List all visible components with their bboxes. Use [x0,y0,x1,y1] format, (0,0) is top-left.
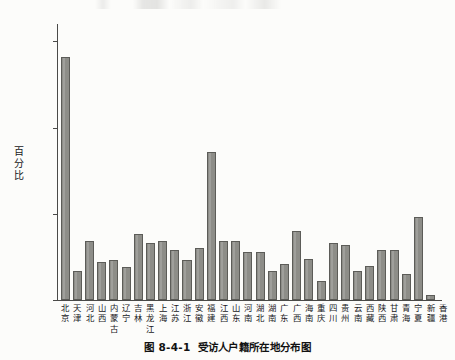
x-tick-label-char: 新 [426,303,436,313]
x-tick-label-char: 福 [206,303,216,313]
x-tick-label-char: 天 [72,303,82,313]
caption-number: 图 8-4-1 [144,341,190,353]
x-tick-label: 甘肃 [389,303,399,324]
y-axis-title-char-2: 分 [12,158,25,170]
x-tick-label-char: 湖 [267,303,277,313]
x-tick-label-char: 山 [231,303,241,313]
x-tick-label: 吉林 [133,303,143,324]
plot-area: 051015 [57,24,442,300]
x-tick-label: 香港 [438,303,448,324]
x-tick-label-char: 北 [60,303,70,313]
bar [170,250,179,300]
x-tick-label-char: 海 [304,303,314,313]
x-tick-label-char: 四 [328,303,338,313]
x-tick-label-char: 广 [279,303,289,313]
x-tick-label: 安徽 [194,303,204,324]
x-tick-label: 宁夏 [413,303,423,324]
bar [219,241,228,300]
x-tick-label-char: 贵 [340,303,350,313]
y-tick-mark [53,214,58,215]
x-tick-label-char: 重 [316,303,326,313]
x-tick-label-char: 香 [438,303,448,313]
figure-caption: 图 8-4-1受访人户籍所在地分布图 [0,339,455,354]
x-tick-label-char: 川 [328,313,338,323]
bar [85,241,94,300]
x-tick-label-char: 藏 [365,313,375,323]
x-tick-label: 辽宁 [121,303,131,324]
x-tick-label-char: 江 [145,324,155,334]
y-tick-mark [53,300,58,301]
x-tick-label-char: 海 [158,313,168,323]
x-tick-label-char: 西 [97,313,107,323]
x-tick-label: 新疆 [426,303,436,324]
bar [134,234,143,300]
bar [243,252,252,300]
x-tick-label-char: 江 [219,303,229,313]
figure-container: 百 分 比 051015 北京天津河北山西内蒙古辽宁吉林黑龙江上海江苏浙江安徽福… [0,0,455,360]
y-axis-title-char-1: 百 [12,146,25,158]
x-tick-label-char: 西 [365,303,375,313]
x-tick-label-char: 建 [206,313,216,323]
bar [426,295,435,300]
bar [61,57,70,300]
x-tick-label-char: 辽 [121,303,131,313]
x-axis-line [57,300,442,301]
x-tick-label: 天津 [72,303,82,324]
x-axis-labels: 北京天津河北山西内蒙古辽宁吉林黑龙江上海江苏浙江安徽福建江西山东河南湖北湖南广东… [57,303,442,337]
x-tick-label-char: 内 [109,303,119,313]
y-axis-title: 百 分 比 [12,146,25,182]
bar [158,241,167,300]
bar [377,250,386,300]
x-tick-label-char: 龙 [145,313,155,323]
x-tick-label: 江苏 [170,303,180,324]
x-tick-label: 湖南 [267,303,277,324]
bar [97,262,106,300]
x-tick-label-char: 苏 [170,313,180,323]
x-tick-label-char: 西 [377,313,387,323]
x-tick-label-char: 江 [182,313,192,323]
bar [109,260,118,300]
bar [317,281,326,300]
x-tick-label-char: 河 [243,303,253,313]
x-tick-label-char: 肃 [389,313,399,323]
x-tick-label: 广西 [292,303,302,324]
x-tick-label-char: 西 [219,313,229,323]
x-tick-label-char: 海 [401,313,411,323]
bar [365,266,374,301]
x-tick-label-char: 上 [158,303,168,313]
x-tick-label: 青海 [401,303,411,324]
x-tick-label: 江西 [219,303,229,324]
x-tick-label-char: 青 [401,303,411,313]
x-tick-label-char: 西 [292,313,302,323]
x-tick-label: 上海 [158,303,168,324]
bar [292,231,301,300]
x-tick-label-char: 云 [353,303,363,313]
x-tick-label-char: 蒙 [109,313,119,323]
x-tick-label: 北京 [60,303,70,324]
x-tick-label-char: 徽 [194,313,204,323]
x-tick-label-char: 黑 [145,303,155,313]
y-axis-line [57,24,58,300]
x-tick-label-char: 江 [170,303,180,313]
bar [207,152,216,300]
x-tick-label-char: 浙 [182,303,192,313]
bar [280,264,289,300]
x-tick-label: 山西 [97,303,107,324]
x-tick-label: 福建 [206,303,216,324]
x-tick-label: 浙江 [182,303,192,324]
x-tick-label-char: 东 [231,313,241,323]
x-tick-label-char: 山 [97,303,107,313]
x-tick-label-char: 庆 [316,313,326,323]
x-tick-label-char: 北 [255,313,265,323]
bar [329,243,338,300]
x-tick-label-char: 州 [340,313,350,323]
bar [390,250,399,300]
x-tick-label-char: 安 [194,303,204,313]
x-tick-label-char: 南 [353,313,363,323]
x-tick-label-char: 林 [133,313,143,323]
x-tick-label: 河南 [243,303,253,324]
x-tick-label-char: 港 [438,313,448,323]
x-tick-label: 广东 [279,303,289,324]
x-tick-label: 陕西 [377,303,387,324]
bar [73,271,82,300]
